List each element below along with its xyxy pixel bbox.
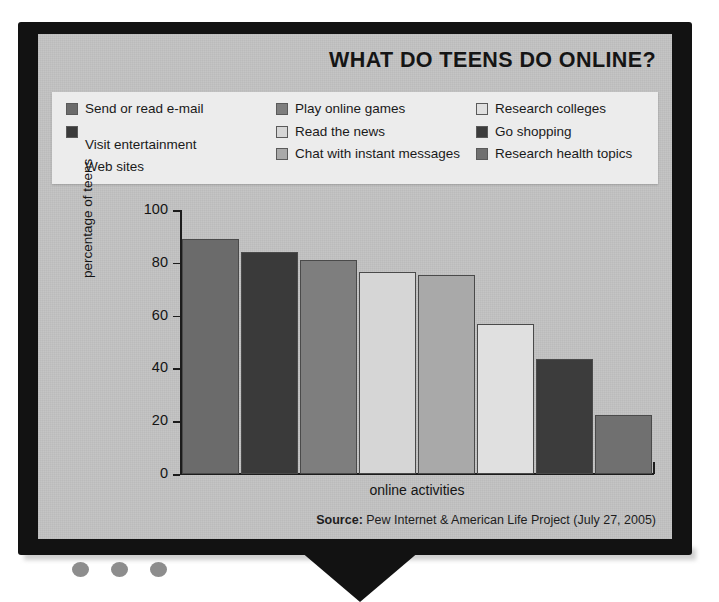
- legend-item-label-line2: Web sites: [85, 160, 197, 174]
- legend-item-label: Research health topics: [495, 147, 632, 161]
- legend-swatch-icon: [66, 126, 78, 138]
- legend-column-1: Send or read e-mail Visit entertainment …: [66, 102, 276, 187]
- legend-grid: Send or read e-mail Visit entertainment …: [52, 92, 658, 184]
- legend-swatch-icon: [476, 126, 488, 138]
- y-axis-tick: 0: [104, 474, 180, 475]
- y-axis-tick-label: 20: [152, 412, 168, 428]
- monitor-screen: WHAT DO TEENS DO ONLINE? Send or read e-…: [38, 34, 672, 539]
- legend-column-3: Research colleges Go shopping Research h…: [476, 102, 672, 187]
- legend-item[interactable]: Research colleges: [476, 102, 672, 116]
- legend-column-2: Play online games Read the news Chat wit…: [276, 102, 476, 187]
- x-axis-end-tick: [653, 462, 655, 474]
- legend-item-label: Go shopping: [495, 125, 572, 139]
- legend-swatch-icon: [276, 126, 288, 138]
- y-axis-tick: 20: [104, 421, 180, 422]
- legend-item[interactable]: Read the news: [276, 125, 476, 139]
- legend-item[interactable]: Visit entertainment Web sites: [66, 125, 276, 187]
- legend-item-label: Visit entertainment Web sites: [85, 125, 197, 187]
- y-axis-tick-mark: [173, 368, 180, 370]
- indicator-light-3[interactable]: [150, 562, 167, 577]
- legend-item[interactable]: Play online games: [276, 102, 476, 116]
- legend-swatch-icon: [476, 103, 488, 115]
- legend-item-label: Research colleges: [495, 102, 606, 116]
- y-axis-tick-mark: [173, 474, 180, 476]
- plot-area: percentage of teens 100806040200 online …: [90, 210, 662, 500]
- y-axis-tick-label: 40: [152, 359, 168, 375]
- y-axis-tick-mark: [173, 421, 180, 423]
- y-axis-tick: 40: [104, 368, 180, 369]
- legend-swatch-icon: [476, 148, 488, 160]
- chart-legend: Send or read e-mail Visit entertainment …: [52, 92, 658, 184]
- y-axis-tick-mark: [173, 210, 180, 212]
- y-axis-tick-label: 0: [160, 465, 168, 481]
- indicator-light-2[interactable]: [111, 562, 128, 577]
- legend-swatch-icon: [276, 148, 288, 160]
- legend-item-label: Send or read e-mail: [85, 102, 204, 116]
- y-axis-tick-mark: [173, 263, 180, 265]
- bar[interactable]: [418, 275, 475, 474]
- y-axis-tick-mark: [173, 316, 180, 318]
- source-note: Source: Pew Internet & American Life Pro…: [316, 513, 656, 527]
- y-axis-tick: 80: [104, 263, 180, 264]
- chart-title: WHAT DO TEENS DO ONLINE?: [329, 48, 656, 73]
- bar[interactable]: [536, 359, 593, 474]
- bar[interactable]: [300, 260, 357, 474]
- legend-item[interactable]: Research health topics: [476, 147, 672, 161]
- monitor-indicator-lights: [72, 562, 167, 577]
- source-label: Source:: [316, 513, 363, 527]
- y-axis-tick: 60: [104, 316, 180, 317]
- monitor-stand: [300, 551, 420, 602]
- legend-item-label: Read the news: [295, 125, 385, 139]
- bar[interactable]: [182, 239, 239, 474]
- legend-swatch-icon: [276, 103, 288, 115]
- bar[interactable]: [477, 324, 534, 474]
- legend-item[interactable]: Chat with instant messages: [276, 147, 476, 161]
- y-axis-tick-label: 80: [152, 254, 168, 270]
- source-value: Pew Internet & American Life Project (Ju…: [363, 513, 656, 527]
- y-axis-tick-label: 60: [152, 307, 168, 323]
- bar[interactable]: [359, 272, 416, 474]
- legend-item-label-line1: Visit entertainment: [85, 137, 197, 152]
- legend-swatch-icon: [66, 103, 78, 115]
- legend-item-label: Chat with instant messages: [295, 147, 460, 161]
- bar[interactable]: [241, 252, 298, 474]
- y-axis-title: percentage of teens: [80, 159, 95, 278]
- y-axis-ticks: 100806040200: [104, 210, 180, 474]
- legend-item[interactable]: Go shopping: [476, 125, 672, 139]
- indicator-light-1[interactable]: [72, 562, 89, 577]
- y-axis-tick: 100: [104, 210, 180, 211]
- x-axis-title: online activities: [180, 482, 654, 498]
- y-axis-tick-label: 100: [144, 201, 168, 217]
- bar-series: [182, 210, 652, 474]
- legend-item[interactable]: Send or read e-mail: [66, 102, 276, 116]
- bar[interactable]: [595, 415, 652, 474]
- screenshot-stage: WHAT DO TEENS DO ONLINE? Send or read e-…: [0, 0, 719, 602]
- legend-item-label: Play online games: [295, 102, 405, 116]
